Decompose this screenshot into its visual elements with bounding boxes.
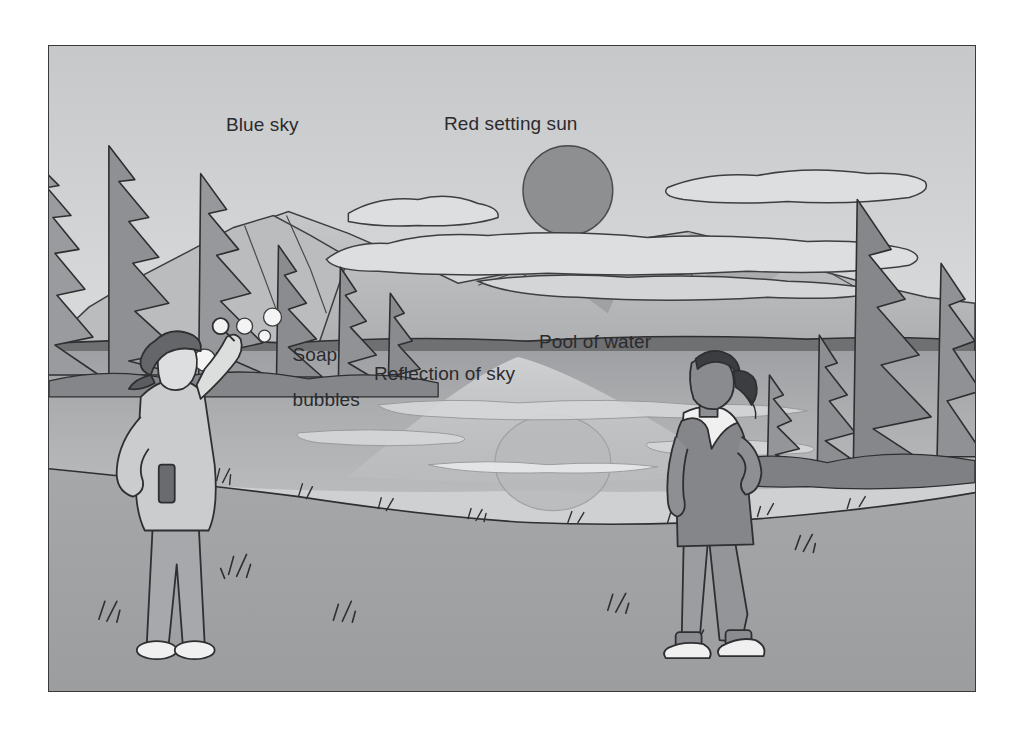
illustration-frame: Blue sky Red setting sun Soap bubbles Re… [48,45,976,692]
red-setting-sun [523,146,613,236]
scene-illustration [49,46,975,691]
